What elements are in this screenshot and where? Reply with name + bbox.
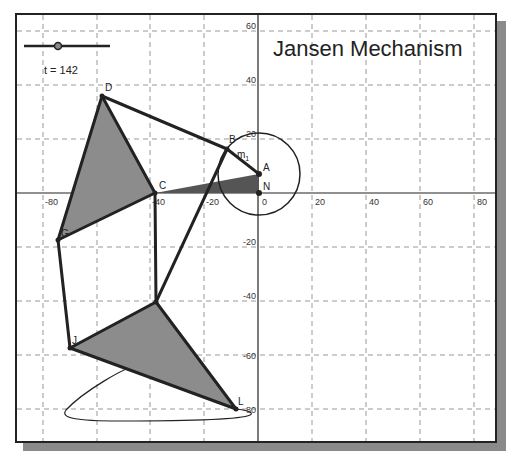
lower-triangle xyxy=(70,302,236,409)
svg-text:-60: -60 xyxy=(243,351,256,361)
label-N: N xyxy=(263,181,270,192)
upper-triangle xyxy=(58,96,155,240)
slider-handle xyxy=(55,43,62,50)
svg-text:-20: -20 xyxy=(243,237,256,247)
label-G: G xyxy=(61,228,69,239)
point-N[interactable] xyxy=(256,190,262,196)
diagram-title: Jansen Mechanism xyxy=(273,36,463,62)
svg-text:40: 40 xyxy=(246,75,256,85)
svg-text:-40: -40 xyxy=(243,291,256,301)
grid xyxy=(17,15,495,441)
point-A[interactable] xyxy=(256,171,262,177)
label-C: C xyxy=(159,180,166,191)
svg-text:-80: -80 xyxy=(45,197,58,207)
svg-text:0: 0 xyxy=(262,197,267,207)
label-A: A xyxy=(263,162,270,173)
svg-text:60: 60 xyxy=(246,21,256,31)
label-D: D xyxy=(105,82,112,93)
svg-text:20: 20 xyxy=(315,197,325,207)
svg-text:80: 80 xyxy=(477,197,487,207)
y-tick-labels: 60 40 20 -20 -40 -60 -80 xyxy=(243,21,256,415)
svg-text:60: 60 xyxy=(423,197,433,207)
label-B: B xyxy=(229,134,236,145)
svg-text:40: 40 xyxy=(369,197,379,207)
svg-text:-20: -20 xyxy=(206,197,219,207)
label-L: L xyxy=(238,396,244,407)
axes xyxy=(17,15,495,441)
label-J: J xyxy=(72,335,77,346)
slider-value-label: t = 142 xyxy=(44,64,78,76)
